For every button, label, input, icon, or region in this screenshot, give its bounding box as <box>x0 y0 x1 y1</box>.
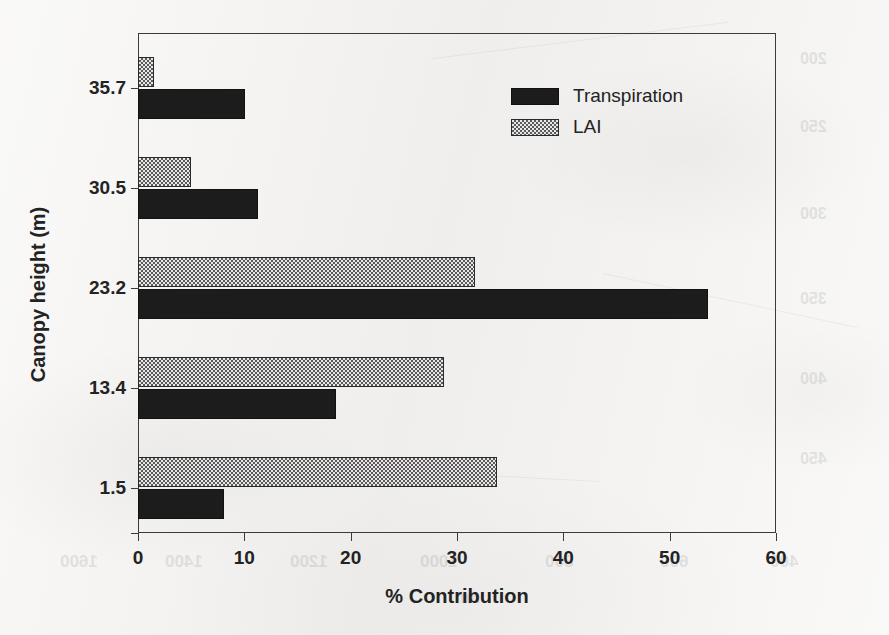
chart-page: 1600140012001000800600400nm2002503003504… <box>0 0 889 635</box>
y-tick-label: 1.5 <box>100 477 126 499</box>
x-tick-mark <box>351 533 352 541</box>
ghost-text: 400 <box>770 552 798 572</box>
y-tick-mark <box>131 288 138 289</box>
ghost-text: 1200 <box>290 552 328 572</box>
bar-lai-1-5 <box>138 457 497 487</box>
y-tick-label: 23.2 <box>89 277 126 299</box>
x-axis-title: % Contribution <box>138 585 776 608</box>
y-tick-mark <box>131 388 138 389</box>
y-tick-mark <box>131 533 138 534</box>
bar-transpiration-35-7 <box>138 89 245 119</box>
y-tick-mark <box>131 188 138 189</box>
x-tick-mark <box>563 533 564 541</box>
x-tick-label: 40 <box>553 547 574 569</box>
ghost-text: 300 <box>800 205 827 223</box>
checkered-swatch <box>511 119 559 136</box>
bar-transpiration-1-5 <box>138 489 224 519</box>
legend-item-lai: LAI <box>511 114 683 140</box>
x-tick-label: 50 <box>659 547 680 569</box>
x-tick-label: 20 <box>340 547 361 569</box>
bar-lai-30-5 <box>138 157 191 187</box>
y-tick-label: 35.7 <box>89 77 126 99</box>
x-tick-mark <box>670 533 671 541</box>
y-tick-label: 13.4 <box>89 377 126 399</box>
y-axis-tick-labels: 35.730.523.213.41.5 <box>0 33 126 533</box>
ghost-text: 1000 <box>420 552 458 572</box>
y-tick-mark <box>131 88 138 89</box>
ghost-text: 250 <box>800 118 827 136</box>
y-tick-label: 30.5 <box>89 177 126 199</box>
x-tick-label: 0 <box>133 547 144 569</box>
legend-label: Transpiration <box>573 85 683 107</box>
y-tick-mark <box>131 488 138 489</box>
bar-lai-13-4 <box>138 357 444 387</box>
ghost-text: 400 <box>800 370 827 388</box>
x-tick-label: 30 <box>446 547 467 569</box>
ghost-text: 350 <box>800 290 827 308</box>
x-tick-label: 10 <box>234 547 255 569</box>
legend-label: LAI <box>573 116 602 138</box>
x-tick-mark <box>138 533 139 541</box>
chart-legend: TranspirationLAI <box>511 83 683 145</box>
x-tick-label: 60 <box>765 547 786 569</box>
ghost-text: 800 <box>545 552 573 572</box>
ghost-text: 200 <box>800 50 827 68</box>
y-axis-title: Canopy height (m) <box>27 115 50 475</box>
ghost-text: 1400 <box>165 552 203 572</box>
x-tick-mark <box>457 533 458 541</box>
ghost-text: 1600 <box>60 552 98 572</box>
ghost-text: 450 <box>800 450 827 468</box>
x-tick-mark <box>776 533 777 541</box>
bar-lai-35-7 <box>138 57 154 87</box>
solid-black-swatch <box>511 88 559 105</box>
x-tick-mark <box>244 533 245 541</box>
ghost-text: 600 <box>660 552 688 572</box>
bar-transpiration-13-4 <box>138 389 336 419</box>
bar-transpiration-23-2 <box>138 289 708 319</box>
bar-lai-23-2 <box>138 257 475 287</box>
legend-item-transpiration: Transpiration <box>511 83 683 109</box>
bar-transpiration-30-5 <box>138 189 258 219</box>
